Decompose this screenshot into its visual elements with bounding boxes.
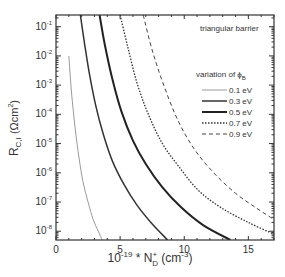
y-tick-label: 10-1 xyxy=(36,20,53,32)
annotation-triangular-barrier: triangular barrier xyxy=(200,24,259,33)
legend-title: variation of ϕB xyxy=(196,70,246,81)
legend-label: 0.3 eV xyxy=(229,97,253,106)
y-tick-label: 10-7 xyxy=(36,195,53,207)
y-tick-label: 10-2 xyxy=(36,49,53,61)
chart: 10-110-210-310-410-510-610-710-8 051015 … xyxy=(0,0,285,277)
legend-label: 0.1 eV xyxy=(229,86,253,95)
legend-label: 0.5 eV xyxy=(229,108,253,117)
x-axis-title: 10-19 * N+D (cm-3) xyxy=(108,250,193,268)
y-tick-label: 10-6 xyxy=(36,166,53,178)
series-line-2 xyxy=(100,15,231,240)
legend-label: 0.9 eV xyxy=(229,130,253,139)
x-tick-label: 15 xyxy=(243,244,255,255)
x-tick-label: 0 xyxy=(53,244,59,255)
legend-items: 0.1 eV0.3 eV0.5 eV0.7 eV0.9 eV xyxy=(202,86,253,139)
y-tick-label: 10-5 xyxy=(36,137,53,149)
series-line-0 xyxy=(69,56,102,240)
y-tick-label: 10-4 xyxy=(36,107,53,119)
legend-label: 0.7 eV xyxy=(229,119,253,128)
y-axis-title: RC,I (Ωcm2) xyxy=(7,100,23,156)
y-tick-labels: 10-110-210-310-410-510-610-710-8 xyxy=(36,20,53,237)
y-tick-label: 10-8 xyxy=(36,224,53,236)
legend: variation of ϕB 0.1 eV0.3 eV0.5 eV0.7 eV… xyxy=(196,70,253,139)
y-tick-label: 10-3 xyxy=(36,78,53,90)
